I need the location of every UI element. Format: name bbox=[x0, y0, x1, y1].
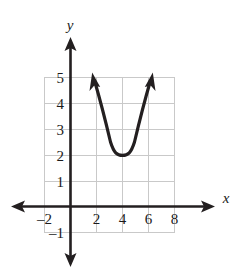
graph-figure: –2 2 4 6 8 5 4 3 2 1 –1 y x bbox=[0, 0, 244, 273]
y-tick-label: 5 bbox=[57, 70, 65, 86]
x-tick-label: 6 bbox=[145, 211, 153, 227]
coordinate-plane: –2 2 4 6 8 5 4 3 2 1 –1 y x bbox=[0, 0, 244, 273]
y-tick-label: 3 bbox=[57, 122, 65, 138]
y-axis-label: y bbox=[65, 17, 74, 33]
x-axis-label: x bbox=[222, 190, 230, 206]
curve-arrow-right bbox=[145, 73, 156, 92]
y-tick-label: –1 bbox=[48, 225, 64, 241]
x-tick-label: 8 bbox=[171, 211, 179, 227]
x-tick-label: 2 bbox=[93, 211, 101, 227]
curve-arrow-left bbox=[90, 73, 101, 92]
y-tick-label: 2 bbox=[57, 148, 65, 164]
y-tick-label: 1 bbox=[57, 174, 65, 190]
x-tick-label: 4 bbox=[119, 211, 127, 227]
y-tick-label: 4 bbox=[57, 96, 65, 112]
